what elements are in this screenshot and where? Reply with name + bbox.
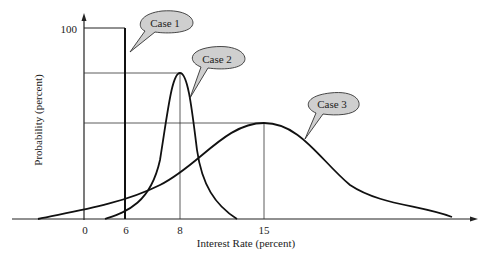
x-tick-8: 8 — [177, 224, 183, 236]
case1-series — [84, 28, 125, 219]
y-axis-title: Probability (percent) — [32, 74, 45, 166]
case2-label: Case 2 — [202, 53, 232, 65]
case3-series — [38, 123, 452, 219]
case1-callout: Case 1 — [130, 11, 193, 52]
y-axis-arrow-icon — [82, 13, 87, 21]
probability-distribution-chart: Case 1 Case 2 Case 3 100 0 6 8 15 Intere… — [0, 0, 495, 264]
x-tick-6: 6 — [123, 224, 129, 236]
case2-callout: Case 2 — [190, 47, 245, 98]
x-tick-15: 15 — [259, 224, 271, 236]
y-tick-100: 100 — [61, 23, 78, 35]
case3-label: Case 3 — [317, 98, 347, 110]
axes — [12, 13, 478, 222]
case3-callout: Case 3 — [305, 93, 359, 139]
x-axis-arrow-icon — [470, 217, 478, 222]
x-tick-0: 0 — [82, 224, 88, 236]
reference-lines — [84, 73, 264, 219]
case1-label: Case 1 — [150, 17, 180, 29]
x-axis-title: Interest Rate (percent) — [197, 237, 296, 250]
